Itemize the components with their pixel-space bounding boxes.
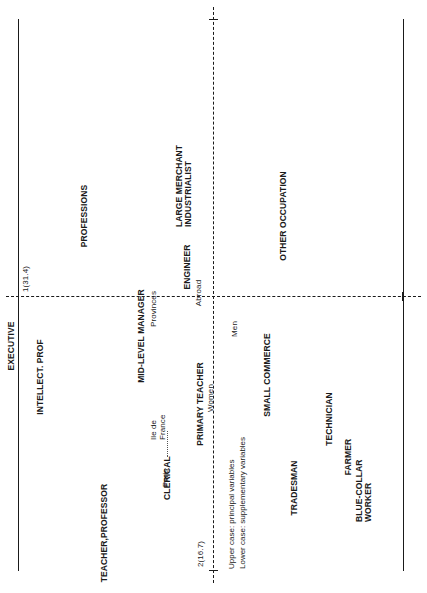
legend-block: Upper case: principal variables Lower ca…	[227, 437, 248, 569]
point-engineer: ENGINEER	[183, 244, 192, 289]
axis-origin-tick-right	[209, 19, 218, 20]
point-women: Women	[207, 384, 216, 412]
point-technician: TECHNICIAN	[325, 392, 334, 445]
point-men: Men	[231, 321, 240, 337]
point-mid-level-manager: MID-LEVEL MANAGER	[137, 289, 146, 383]
axis-origin-tick-top	[18, 292, 19, 301]
point-abroad: Abroad	[195, 280, 204, 306]
point-farmer: FARMER	[344, 439, 353, 476]
axis-1-line	[213, 7, 214, 583]
point-teacher-professor: TEACHER,PROFESSOR	[100, 484, 109, 583]
point-provinces: Provinces	[150, 291, 159, 327]
axis-2-line	[6, 296, 421, 297]
point-tradesman: TRADESMAN	[290, 460, 299, 515]
point-other-occupation: OTHER OCCUPATION	[279, 171, 288, 261]
mca-biplot-figure: 1(31.4) 2(16.7) Upper case: principal va…	[0, 0, 427, 593]
axis-1-label: 1(31.4)	[22, 266, 31, 292]
point-small-commerce: SMALL COMMERCE	[263, 333, 272, 416]
point-primary-teacher: PRIMARY TEACHER	[196, 362, 205, 446]
point-intellect-prof: INTELLECT. PROF	[36, 339, 45, 415]
plot-frame: 1(31.4) 2(16.7) Upper case: principal va…	[0, 0, 427, 593]
axis-2-label: 2(16.7)	[197, 541, 206, 567]
legend-line-principal: Upper case: principal variables	[227, 437, 238, 569]
point-paris: Paris	[162, 469, 171, 488]
point-professions: PROFESSIONS	[80, 185, 89, 248]
clerical-leader-dots	[167, 431, 168, 457]
plot-bottom-border	[403, 19, 404, 571]
point-executive: EXECUTIVE	[7, 321, 16, 370]
axis-origin-tick-left	[209, 570, 218, 571]
legend-line-supplementary: Lower case: supplementary variables	[238, 437, 249, 569]
axis-origin-tick-bottom	[402, 292, 403, 301]
